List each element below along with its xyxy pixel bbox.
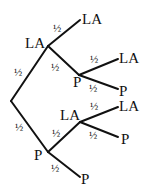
node-label-la-p: P [73, 74, 81, 90]
node-label-p: P [34, 147, 42, 163]
prob-p-la-to-la: ½ [90, 100, 98, 112]
node-label-p-la-la: LA [119, 98, 139, 114]
prob-la-to-la: ½ [53, 22, 61, 34]
prob-p-to-la: ½ [52, 127, 60, 139]
prob-la-p-to-p: ½ [89, 82, 97, 94]
prob-p-la-to-p: ½ [89, 129, 97, 141]
node-label-la-la: LA [82, 11, 102, 27]
prob-root-to-p: ½ [15, 121, 23, 133]
edge-p-la-to-la [80, 107, 118, 122]
node-label-la-p-p: P [119, 83, 127, 99]
node-label-la-p-la: LA [119, 50, 139, 66]
prob-root-to-la: ½ [14, 66, 22, 78]
node-label-p-la-p: P [121, 131, 129, 147]
probability-tree: ½ ½ ½ ½ ½ ½ ½ ½ ½ ½ LA LA P LA P P LA LA… [0, 0, 151, 192]
prob-p-to-p: ½ [51, 162, 59, 174]
node-label-la: LA [25, 35, 45, 51]
node-label-p-la: LA [60, 107, 80, 123]
prob-la-to-p: ½ [51, 61, 59, 73]
edge-la-p-to-la [79, 59, 118, 75]
edge-la-p-to-p [79, 75, 118, 89]
node-label-p-p: P [81, 171, 89, 187]
prob-la-p-to-la: ½ [90, 53, 98, 65]
edge-p-la-to-p [80, 122, 118, 137]
